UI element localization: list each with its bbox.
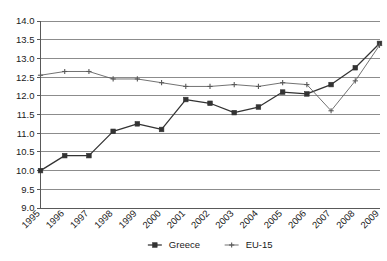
chart-legend: GreeceEU-15 [148, 239, 273, 250]
data-point-marker [159, 127, 164, 132]
x-tick-label: 2004 [237, 208, 260, 231]
y-tick-label: 13.0 [16, 53, 35, 64]
x-tick-label: 2007 [310, 208, 333, 231]
data-point-marker [280, 90, 285, 95]
x-tick-label: 2008 [334, 208, 357, 231]
y-tick-label: 11.0 [17, 128, 35, 139]
data-point-marker [38, 168, 43, 173]
legend-label: EU-15 [246, 239, 273, 250]
data-point-marker [232, 110, 237, 115]
data-point-marker [87, 153, 92, 158]
gridlines-group [41, 21, 380, 208]
data-point-marker [208, 101, 213, 106]
data-point-marker [353, 65, 358, 70]
y-tick-label: 13.5 [16, 34, 35, 45]
series-greece [38, 41, 382, 173]
data-point-marker [183, 97, 188, 102]
data-point-marker [256, 105, 261, 110]
chart-canvas: 9.09.510.010.511.011.512.012.513.013.514… [0, 0, 387, 261]
x-tick-label: 1996 [43, 208, 66, 231]
x-tick-label: 1997 [68, 208, 91, 231]
data-point-marker [135, 122, 140, 127]
data-point-marker [329, 82, 334, 87]
x-tick-label: 1998 [92, 208, 115, 231]
x-tick-label: 1999 [116, 208, 139, 231]
y-axis-tick-labels: 9.09.510.010.511.011.512.012.513.013.514… [16, 15, 35, 213]
data-point-marker [62, 153, 67, 158]
legend-marker-square [153, 243, 158, 248]
y-tick-label: 12.0 [16, 90, 35, 101]
x-tick-label: 2009 [358, 208, 381, 231]
x-axis-tick-labels: 1995199619971998199920002001200220032004… [19, 208, 381, 231]
data-point-marker [305, 92, 310, 97]
x-tick-label: 2001 [164, 208, 187, 231]
y-tick-label: 9.5 [21, 184, 34, 195]
y-tick-label: 11.5 [17, 109, 35, 120]
y-tick-label: 10.5 [16, 146, 35, 157]
data-point-marker [111, 129, 116, 134]
x-tick-label: 2002 [189, 208, 212, 231]
legend-item-eu-15[interactable]: EU-15 [225, 239, 273, 250]
y-tick-label: 12.5 [16, 72, 35, 83]
x-tick-label: 2006 [286, 208, 309, 231]
line-chart: 9.09.510.010.511.011.512.012.513.013.514… [0, 0, 387, 261]
series-group [38, 41, 382, 173]
y-tick-label: 10.0 [16, 165, 35, 176]
legend-item-greece[interactable]: Greece [148, 239, 200, 250]
x-tick-label: 2003 [213, 208, 236, 231]
x-tick-label: 2000 [140, 208, 163, 231]
legend-label: Greece [169, 239, 200, 250]
x-tick-label: 2005 [261, 208, 284, 231]
y-tick-label: 14.0 [16, 15, 35, 26]
